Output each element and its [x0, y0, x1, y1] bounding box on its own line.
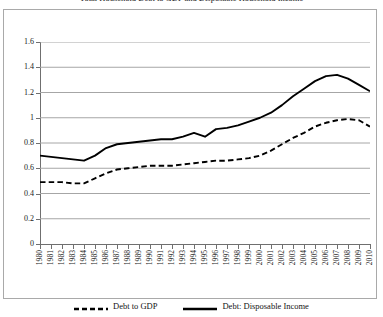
x-tick-label: 1989	[135, 250, 143, 265]
x-tick-label: 2005	[311, 250, 319, 265]
x-tick-label: 1998	[234, 250, 242, 265]
x-tick-mark	[304, 245, 305, 249]
x-tick-label: 1986	[102, 250, 110, 265]
y-tick-mark	[36, 143, 40, 144]
chart-legend: Debt to GDP Debt: Disposable Income	[0, 298, 383, 314]
x-tick-label: 1988	[124, 250, 132, 265]
x-tick-mark	[161, 245, 162, 249]
y-tick-mark	[36, 194, 40, 195]
x-tick-mark	[260, 245, 261, 249]
x-tick-label: 2009	[355, 250, 363, 265]
x-tick-label: 2003	[289, 250, 297, 265]
legend-label-debt-to-gdp: Debt to GDP	[113, 301, 157, 311]
x-tick-mark	[282, 245, 283, 249]
x-tick-mark	[238, 245, 239, 249]
x-tick-mark	[139, 245, 140, 249]
y-tick-mark	[36, 219, 40, 220]
y-tick-mark	[36, 42, 40, 43]
x-tick-mark	[172, 245, 173, 249]
x-tick-label: 1981	[47, 250, 55, 265]
x-tick-label: 1999	[245, 250, 253, 265]
x-tick-mark	[128, 245, 129, 249]
x-tick-mark	[95, 245, 96, 249]
x-tick-mark	[183, 245, 184, 249]
x-tick-label: 2010	[366, 250, 374, 265]
x-tick-label: 1994	[190, 250, 198, 265]
x-tick-mark	[227, 245, 228, 249]
x-tick-label: 1993	[179, 250, 187, 265]
legend-label-debt-disposable-income: Debt: Disposable Income	[222, 301, 308, 311]
x-tick-mark	[150, 245, 151, 249]
x-tick-label: 1980	[36, 250, 44, 265]
legend-item-debt-disposable-income: Debt: Disposable Income	[183, 301, 308, 311]
y-tick-mark	[36, 168, 40, 169]
x-tick-label: 1992	[168, 250, 176, 265]
x-tick-mark	[249, 245, 250, 249]
x-tick-mark	[84, 245, 85, 249]
x-tick-mark	[315, 245, 316, 249]
x-tick-label: 1987	[113, 250, 121, 265]
x-tick-mark	[51, 245, 52, 249]
x-tick-label: 2008	[344, 250, 352, 265]
y-tick-mark	[36, 67, 40, 68]
x-tick-mark	[271, 245, 272, 249]
x-tick-mark	[326, 245, 327, 249]
chart-screenshot: Total Household Debt to GDP and Disposab…	[0, 0, 383, 317]
x-tick-mark	[359, 245, 360, 249]
x-tick-mark	[62, 245, 63, 249]
y-tick-mark	[36, 244, 40, 245]
x-tick-mark	[205, 245, 206, 249]
x-tick-mark	[216, 245, 217, 249]
x-tick-label: 2007	[333, 250, 341, 265]
x-tick-label: 2004	[300, 250, 308, 265]
y-tick-mark	[36, 118, 40, 119]
x-tick-label: 1984	[80, 250, 88, 265]
x-tick-mark	[348, 245, 349, 249]
x-tick-label: 2006	[322, 250, 330, 265]
x-tick-label: 1991	[157, 250, 165, 265]
x-tick-mark	[117, 245, 118, 249]
x-tick-label: 2001	[267, 250, 275, 265]
x-tick-mark	[293, 245, 294, 249]
x-tick-label: 1990	[146, 250, 154, 265]
legend-item-debt-to-gdp: Debt to GDP	[74, 301, 157, 311]
x-tick-label: 1997	[223, 250, 231, 265]
x-tick-label: 2000	[256, 250, 264, 265]
x-tick-mark	[40, 245, 41, 249]
x-tick-mark	[73, 245, 74, 249]
x-tick-mark	[337, 245, 338, 249]
x-tick-label: 1982	[58, 250, 66, 265]
x-tick-mark	[370, 245, 371, 249]
x-tick-mark	[106, 245, 107, 249]
x-tick-label: 1985	[91, 250, 99, 265]
x-tick-label: 2002	[278, 250, 286, 265]
x-tick-label: 1983	[69, 250, 77, 265]
y-tick-mark	[36, 93, 40, 94]
x-tick-mark	[194, 245, 195, 249]
x-tick-label: 1995	[201, 250, 209, 265]
x-axis-labels: 1980198119821983198419851986198719881989…	[0, 0, 383, 317]
x-tick-label: 1996	[212, 250, 220, 265]
